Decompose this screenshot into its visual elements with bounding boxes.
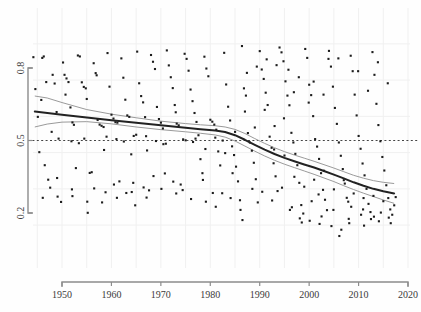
data-point xyxy=(274,125,276,127)
data-point xyxy=(79,55,81,57)
data-point xyxy=(146,197,148,199)
data-point xyxy=(296,164,298,166)
data-point xyxy=(365,188,367,190)
data-point xyxy=(377,124,379,126)
data-point xyxy=(314,138,316,140)
data-point xyxy=(264,109,266,111)
data-point xyxy=(168,64,170,66)
data-point xyxy=(63,74,65,76)
data-point xyxy=(86,201,88,203)
data-point xyxy=(83,86,85,88)
data-point xyxy=(322,94,324,96)
data-point xyxy=(156,106,158,108)
data-point xyxy=(224,152,226,154)
data-point xyxy=(103,149,105,151)
data-point xyxy=(130,153,132,155)
data-point xyxy=(234,131,236,133)
data-point xyxy=(308,102,310,104)
data-point xyxy=(294,153,296,155)
data-point xyxy=(370,218,372,220)
data-point xyxy=(166,49,168,51)
data-point xyxy=(364,174,366,176)
data-point xyxy=(202,179,204,181)
data-point xyxy=(45,81,47,83)
data-point xyxy=(186,58,188,60)
data-point xyxy=(162,143,164,145)
data-point xyxy=(93,62,95,64)
data-point xyxy=(85,87,87,89)
data-point xyxy=(375,103,377,105)
data-point xyxy=(253,162,255,164)
data-point xyxy=(219,164,221,166)
data-point xyxy=(191,100,193,102)
x-axis xyxy=(62,282,408,287)
gridlines xyxy=(33,8,410,268)
data-point xyxy=(360,148,362,150)
x-tick-label: 1960 xyxy=(101,289,121,300)
data-point xyxy=(152,61,154,63)
data-point xyxy=(108,86,110,88)
data-point xyxy=(95,72,97,74)
data-point xyxy=(77,54,79,56)
data-point xyxy=(298,76,300,78)
data-point xyxy=(280,51,282,53)
x-tick-label: 2010 xyxy=(349,289,369,300)
data-point xyxy=(303,186,305,188)
data-point xyxy=(318,158,320,160)
data-point xyxy=(160,188,162,190)
data-point xyxy=(211,121,213,123)
data-point xyxy=(120,57,122,59)
data-point xyxy=(86,98,88,100)
data-point xyxy=(71,188,73,190)
data-point xyxy=(362,162,364,164)
data-point xyxy=(360,214,362,216)
data-point xyxy=(283,154,285,156)
data-point xyxy=(347,201,349,203)
data-point xyxy=(215,206,217,208)
data-point xyxy=(155,140,157,142)
data-point xyxy=(300,204,302,206)
data-point xyxy=(290,132,292,134)
data-point xyxy=(244,111,246,113)
data-point xyxy=(145,135,147,137)
data-point xyxy=(282,60,284,62)
data-point xyxy=(231,145,233,147)
data-point xyxy=(388,217,390,219)
data-point xyxy=(180,183,182,185)
data-point xyxy=(348,222,350,224)
data-point xyxy=(299,217,301,219)
data-point xyxy=(197,134,199,136)
data-point xyxy=(271,199,273,201)
data-point xyxy=(152,175,154,177)
data-point xyxy=(89,172,91,174)
data-point xyxy=(390,222,392,224)
data-point xyxy=(101,201,103,203)
data-point xyxy=(378,220,380,222)
data-point xyxy=(125,192,127,194)
data-point xyxy=(135,134,137,136)
data-point xyxy=(377,61,379,63)
data-point xyxy=(225,83,227,85)
y-tick-labels: 0.20.50.8 xyxy=(15,62,26,220)
data-point xyxy=(254,126,256,128)
data-point xyxy=(223,52,225,54)
data-point xyxy=(57,196,59,198)
data-point xyxy=(381,156,383,158)
data-point xyxy=(150,54,152,56)
data-point xyxy=(101,125,103,127)
data-point xyxy=(302,212,304,214)
data-point xyxy=(62,61,64,63)
data-point xyxy=(367,90,369,92)
data-point xyxy=(273,148,275,150)
data-point xyxy=(293,91,295,93)
data-point xyxy=(146,149,148,151)
data-point xyxy=(42,197,44,199)
data-point xyxy=(190,198,192,200)
data-point xyxy=(318,193,320,195)
data-point xyxy=(372,195,374,197)
data-point xyxy=(174,104,176,106)
data-point xyxy=(333,188,335,190)
data-point xyxy=(185,139,187,141)
data-point xyxy=(247,132,249,134)
data-point xyxy=(99,124,101,126)
